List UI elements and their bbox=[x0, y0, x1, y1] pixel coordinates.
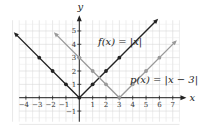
svg-text:3: 3 bbox=[72, 54, 76, 62]
svg-text:7: 7 bbox=[171, 101, 175, 109]
p-function-label: p(x) = |x − 3| bbox=[130, 74, 198, 86]
x-axis-label: x bbox=[189, 92, 195, 103]
svg-text:6: 6 bbox=[157, 101, 162, 109]
svg-text:−3: −3 bbox=[32, 101, 42, 109]
svg-text:−1: −1 bbox=[66, 108, 76, 116]
svg-text:5: 5 bbox=[144, 101, 148, 109]
function-graph: −4−3−2−11234567−112345 y x f(x) = |x| p(… bbox=[0, 0, 211, 127]
svg-text:3: 3 bbox=[117, 101, 121, 109]
svg-text:5: 5 bbox=[72, 27, 76, 35]
svg-text:1: 1 bbox=[90, 101, 94, 109]
svg-text:−2: −2 bbox=[45, 101, 55, 109]
svg-text:−4: −4 bbox=[19, 101, 30, 109]
grid bbox=[13, 20, 180, 124]
tick-labels: −4−3−2−11234567−112345 bbox=[19, 27, 175, 115]
f-function-label: f(x) = |x| bbox=[97, 36, 142, 48]
svg-text:2: 2 bbox=[72, 68, 76, 76]
svg-text:1: 1 bbox=[72, 81, 76, 89]
svg-text:4: 4 bbox=[72, 41, 77, 49]
svg-text:4: 4 bbox=[130, 101, 135, 109]
y-axis-label: y bbox=[76, 1, 83, 12]
svg-text:2: 2 bbox=[104, 101, 108, 109]
